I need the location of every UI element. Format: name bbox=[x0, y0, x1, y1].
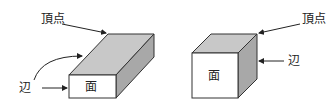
cuboid-vertex-label: 頂点 bbox=[41, 13, 65, 25]
cube-face-label: 面 bbox=[208, 70, 220, 82]
cuboid-edge-label: 辺 bbox=[19, 82, 31, 94]
cube-shape bbox=[192, 34, 257, 98]
cuboid-vertex-arrow bbox=[62, 24, 106, 33]
cube-vertex-label: 頂点 bbox=[302, 13, 326, 25]
cube-edge-label: 辺 bbox=[288, 55, 300, 67]
cube-vertex-arrow bbox=[259, 24, 300, 33]
cuboid-face-label: 面 bbox=[85, 81, 97, 93]
cuboid-shape bbox=[69, 34, 154, 98]
